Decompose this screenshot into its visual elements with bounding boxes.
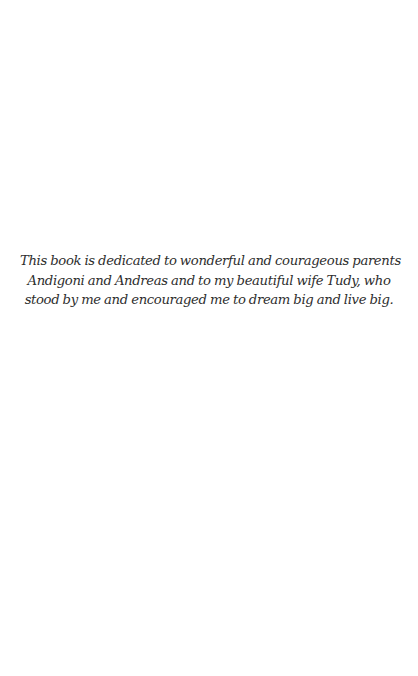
dedication-line-3: stood by me and encouraged me to dream b… — [20, 290, 398, 310]
book-page: This book is dedicated to wonderful and … — [0, 0, 418, 676]
dedication-line-2: Andigoni and Andreas and to my beautiful… — [20, 271, 398, 291]
dedication-text: This book is dedicated to wonderful and … — [20, 251, 398, 310]
dedication-line-1: This book is dedicated to wonderful and … — [20, 251, 398, 271]
